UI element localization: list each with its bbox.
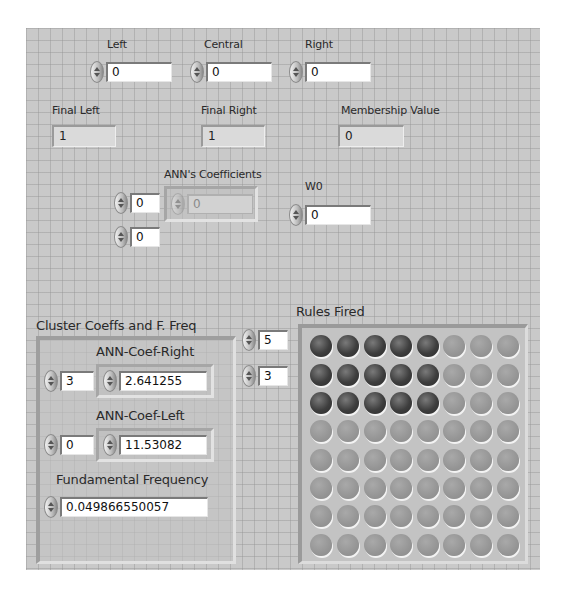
fundamental-frequency-input[interactable]: 0.049866550057 [60, 497, 208, 517]
ann-coefficients-array-frame: 0 [164, 186, 258, 222]
led-indicator [337, 364, 359, 386]
col-index-input[interactable]: 0 [130, 227, 160, 247]
increment-decrement-icon[interactable] [242, 365, 256, 387]
rules-fired-label: Rules Fired [296, 304, 364, 319]
led-indicator [310, 477, 332, 499]
final-right-label: Final Right [201, 104, 257, 117]
fundamental-frequency-label: Fundamental Frequency [56, 472, 208, 487]
led-indicator [470, 449, 492, 471]
ann-coef-left-index: 0 [44, 434, 94, 456]
increment-decrement-icon[interactable] [289, 204, 303, 226]
led-indicator [310, 364, 332, 386]
central-label: Central [204, 38, 243, 51]
led-indicator [443, 449, 465, 471]
cluster-frame: ANN-Coef-Right 3 2.641255 ANN-Coef-Left … [36, 336, 236, 564]
led-indicator [497, 335, 519, 357]
led-indicator [390, 420, 412, 442]
ann-coefficient-element-input: 0 [187, 194, 253, 214]
led-indicator [364, 505, 386, 527]
left-label: Left [107, 38, 127, 51]
central-control: 0 [190, 61, 272, 83]
ann-coef-right-value-input[interactable]: 2.641255 [119, 371, 207, 391]
led-indicator [337, 449, 359, 471]
led-indicator [497, 505, 519, 527]
ann-coef-left-element: 11.53082 [103, 434, 207, 456]
led-indicator [390, 392, 412, 414]
led-indicator [470, 335, 492, 357]
ann-coefficients-element: 0 [171, 193, 253, 215]
rules-fired-col-index-input[interactable]: 3 [258, 366, 288, 386]
increment-decrement-icon[interactable] [44, 370, 58, 392]
membership-value-indicator: 0 [338, 125, 404, 147]
led-indicator [337, 477, 359, 499]
led-indicator [364, 335, 386, 357]
increment-decrement-icon[interactable] [103, 370, 117, 392]
right-input[interactable]: 0 [305, 62, 371, 82]
led-indicator [470, 364, 492, 386]
ann-coef-right-element: 2.641255 [103, 370, 207, 392]
led-indicator [390, 534, 412, 556]
increment-decrement-icon[interactable] [103, 434, 117, 456]
led-indicator [497, 477, 519, 499]
led-indicator [443, 477, 465, 499]
increment-decrement-icon[interactable] [289, 61, 303, 83]
led-indicator [417, 477, 439, 499]
led-indicator [364, 449, 386, 471]
ann-coefficients-row-index: 0 [114, 192, 160, 214]
increment-decrement-icon[interactable] [44, 434, 58, 456]
final-left-indicator: 1 [52, 125, 116, 147]
ann-coef-left-index-input[interactable]: 0 [60, 435, 94, 455]
increment-decrement-icon[interactable] [242, 329, 256, 351]
led-indicator [417, 505, 439, 527]
ann-coef-left-label: ANN-Coef-Left [96, 408, 184, 423]
ann-coef-left-value-input[interactable]: 11.53082 [119, 435, 207, 455]
led-indicator [417, 420, 439, 442]
led-indicator [443, 392, 465, 414]
central-input[interactable]: 0 [206, 62, 272, 82]
increment-decrement-icon[interactable] [114, 192, 128, 214]
left-control: 0 [90, 61, 172, 83]
led-indicator [417, 335, 439, 357]
final-right-indicator: 1 [201, 125, 265, 147]
increment-decrement-icon [171, 193, 185, 215]
led-indicator [497, 420, 519, 442]
led-indicator [310, 420, 332, 442]
led-indicator [497, 364, 519, 386]
led-indicator [310, 335, 332, 357]
led-indicator [390, 477, 412, 499]
front-panel: Left 0 Central 0 Right 0 Final Left 1 Fi… [26, 28, 540, 570]
increment-decrement-icon[interactable] [44, 496, 58, 518]
led-indicator [337, 534, 359, 556]
increment-decrement-icon[interactable] [190, 61, 204, 83]
led-indicator [443, 420, 465, 442]
led-indicator [364, 392, 386, 414]
rules-fired-row-index: 5 [242, 329, 292, 351]
ann-coef-right-array-frame: 2.641255 [96, 364, 214, 398]
increment-decrement-icon[interactable] [90, 61, 104, 83]
right-label: Right [305, 38, 333, 51]
fundamental-frequency-control: 0.049866550057 [44, 496, 208, 518]
w0-label: W0 [305, 180, 322, 193]
row-index-input[interactable]: 0 [130, 193, 160, 213]
led-indicator [497, 534, 519, 556]
ann-coefficients-col-index: 0 [114, 226, 160, 248]
rules-fired-row-index-input[interactable]: 5 [258, 330, 288, 350]
led-indicator [390, 449, 412, 471]
led-indicator [497, 449, 519, 471]
w0-control: 0 [289, 204, 371, 226]
led-indicator [390, 505, 412, 527]
cluster-label: Cluster Coeffs and F. Freq [36, 318, 196, 333]
led-indicator [470, 477, 492, 499]
led-indicator [310, 505, 332, 527]
left-input[interactable]: 0 [106, 62, 172, 82]
led-indicator [417, 449, 439, 471]
led-indicator [310, 392, 332, 414]
w0-input[interactable]: 0 [305, 205, 371, 225]
ann-coef-right-label: ANN-Coef-Right [96, 344, 194, 359]
led-indicator [443, 364, 465, 386]
ann-coef-right-index-input[interactable]: 3 [60, 371, 94, 391]
led-indicator [470, 534, 492, 556]
increment-decrement-icon[interactable] [114, 226, 128, 248]
led-indicator [497, 392, 519, 414]
ann-coef-left-array-frame: 11.53082 [96, 428, 214, 462]
